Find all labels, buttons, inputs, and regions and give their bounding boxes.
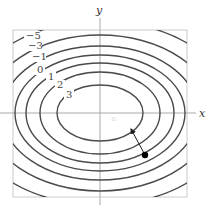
y-axis-label: y [95, 4, 103, 17]
point-marker [142, 152, 148, 158]
contour-label: 2 [57, 79, 63, 90]
contour-label: 0 [37, 64, 43, 75]
contour-label: 3 [66, 89, 72, 100]
contour-label: −3 [28, 40, 43, 51]
contour-label: −1 [32, 51, 47, 62]
contour-plot: x y −5−3−10123 n [0, 0, 211, 211]
contour-label: 1 [48, 71, 54, 82]
center-faint-label: n [111, 114, 116, 123]
x-axis-label: x [199, 107, 206, 120]
